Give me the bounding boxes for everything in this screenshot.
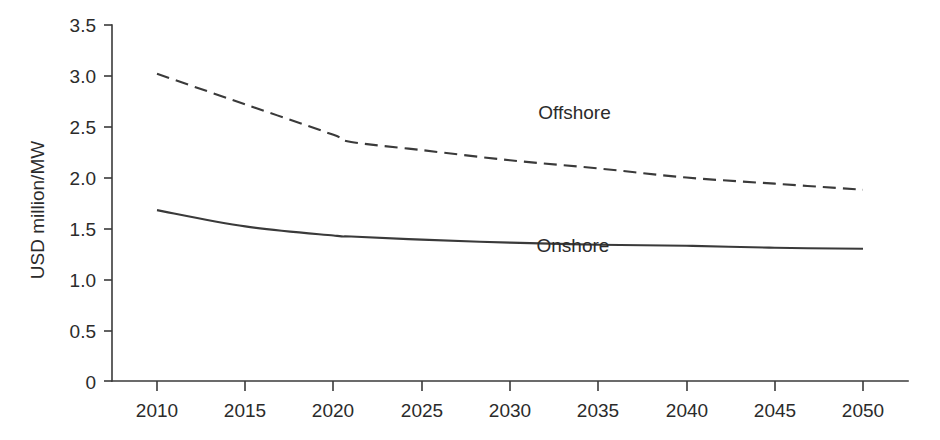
y-tick-label: 2.5 xyxy=(70,117,96,138)
x-axis-tick-marks xyxy=(157,381,863,391)
y-tick-label: 2.0 xyxy=(70,168,96,189)
series-label-offshore: Offshore xyxy=(538,102,611,123)
x-tick-label: 2030 xyxy=(489,400,531,421)
y-axis-tick-labels: 3.5 3.0 2.5 2.0 1.5 1.0 0.5 0 xyxy=(70,15,96,393)
chart-canvas: USD million/MW 3.5 3.0 2.5 2.0 1.5 1.0 0… xyxy=(0,0,940,440)
x-tick-label: 2015 xyxy=(224,400,266,421)
x-tick-label: 2020 xyxy=(312,400,354,421)
x-tick-label: 2040 xyxy=(666,400,708,421)
y-tick-label: 0.5 xyxy=(70,321,96,342)
x-tick-label: 2035 xyxy=(577,400,619,421)
y-tick-label: 1.0 xyxy=(70,270,96,291)
y-tick-label: 1.5 xyxy=(70,219,96,240)
y-tick-label: 3.0 xyxy=(70,66,96,87)
x-tick-label: 2010 xyxy=(136,400,178,421)
y-axis-title: USD million/MW xyxy=(27,141,48,279)
line-chart-figure: USD million/MW 3.5 3.0 2.5 2.0 1.5 1.0 0… xyxy=(0,0,940,440)
y-tick-label: 0 xyxy=(85,372,96,393)
x-tick-label: 2025 xyxy=(401,400,443,421)
x-tick-label: 2050 xyxy=(842,400,884,421)
series-label-onshore: Onshore xyxy=(537,235,610,256)
series-line-offshore xyxy=(157,74,863,190)
x-tick-label: 2045 xyxy=(754,400,796,421)
y-tick-label: 3.5 xyxy=(70,15,96,36)
series-line-onshore xyxy=(157,210,863,249)
y-axis-tick-marks xyxy=(104,25,112,381)
x-axis-tick-labels: 2010 2015 2020 2025 2030 2035 2040 2045 … xyxy=(136,400,884,421)
